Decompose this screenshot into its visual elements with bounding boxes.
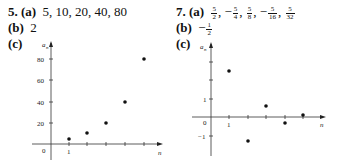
x-axis-arrow-icon — [320, 115, 326, 119]
svg-text:n: n — [204, 47, 207, 52]
y-tick-60: 60 — [37, 77, 45, 85]
chart-5c-points — [67, 57, 146, 141]
y-axis-arrow-icon — [49, 41, 53, 47]
y-tick-20: 20 — [37, 120, 45, 128]
y-tick-1: 1 — [203, 96, 207, 104]
chart-5c: a n 80 60 40 20 0 1 n a n 1 −1 0 1 n — [0, 0, 341, 165]
x-axis-arrow-icon — [157, 142, 163, 146]
chart-7c-axes — [192, 44, 323, 156]
x-axis-label: n — [320, 121, 324, 129]
x-tick-1: 1 — [67, 148, 71, 156]
x-tick-1: 1 — [227, 121, 231, 129]
y-tick-neg1: −1 — [198, 133, 206, 141]
chart-5c-axes — [32, 43, 160, 160]
y-axis-arrow-icon — [209, 42, 213, 48]
y-tick-40: 40 — [37, 99, 45, 107]
svg-text:n: n — [46, 45, 49, 50]
y-tick-80: 80 — [37, 56, 45, 64]
origin-label: 0 — [42, 147, 46, 155]
origin-label: 0 — [203, 119, 207, 127]
x-axis-label: n — [158, 149, 162, 157]
chart-7c-points — [227, 69, 305, 143]
